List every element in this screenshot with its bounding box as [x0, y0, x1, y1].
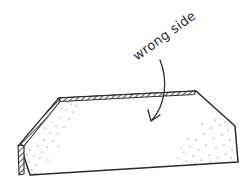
sewing-diagram: wrong side [0, 0, 249, 186]
folded-edge-left-vertical [18, 145, 24, 175]
wrong-side-label: wrong side [130, 8, 199, 64]
fabric-piece [20, 91, 238, 175]
